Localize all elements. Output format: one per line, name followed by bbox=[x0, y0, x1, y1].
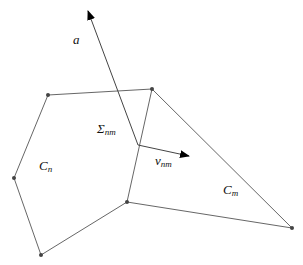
label-v-nm: vnm bbox=[155, 153, 172, 169]
label-sigma-nm: Σnm bbox=[96, 121, 116, 137]
label-sigma-main: Σ bbox=[96, 121, 105, 136]
vertex-node bbox=[46, 93, 50, 97]
cell-diagram: a Σnm vnm Cn Cm bbox=[0, 0, 303, 265]
vertex-node bbox=[125, 200, 129, 204]
label-cm-sub: m bbox=[232, 188, 239, 198]
label-cn-sub: n bbox=[48, 164, 53, 174]
label-a: a bbox=[73, 32, 80, 47]
edge-p4-p5 bbox=[41, 202, 127, 255]
edge-p1-p2 bbox=[48, 89, 152, 95]
vertex-node bbox=[290, 226, 294, 230]
vertex-node bbox=[12, 176, 16, 180]
vector-a-arrow bbox=[88, 11, 138, 145]
edge-p5-p6 bbox=[127, 202, 292, 228]
vertex-node bbox=[150, 87, 154, 91]
label-cm-main: C bbox=[223, 182, 232, 197]
label-sigma-sub: nm bbox=[105, 127, 117, 137]
label-c-m: Cm bbox=[223, 182, 239, 198]
edge-p2-p6 bbox=[152, 89, 292, 228]
label-cn-main: C bbox=[39, 158, 48, 173]
vector-vnm-arrow bbox=[138, 145, 189, 156]
vertex-node bbox=[39, 253, 43, 257]
label-v-sub: nm bbox=[161, 159, 173, 169]
label-c-n: Cn bbox=[39, 158, 53, 174]
edge-p3-p4 bbox=[14, 178, 41, 255]
